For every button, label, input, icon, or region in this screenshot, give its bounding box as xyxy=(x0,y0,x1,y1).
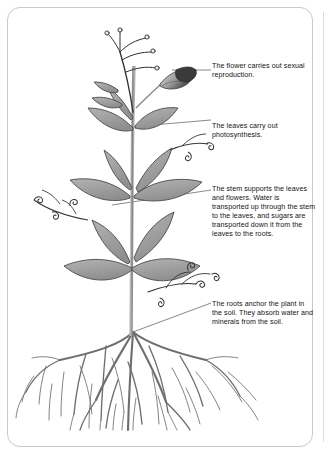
leaf-group-lower xyxy=(33,190,200,281)
leader-roots xyxy=(133,303,211,332)
leaf xyxy=(135,108,178,130)
leaf xyxy=(134,212,174,262)
leaf xyxy=(94,82,118,93)
stem-label: The stem supports the leaves and flowers… xyxy=(212,185,318,240)
root-system xyxy=(16,332,258,430)
roots-label: The roots anchor the plant in the soil. … xyxy=(212,300,316,327)
figure-page: The flower carries out sexual reproducti… xyxy=(0,0,330,462)
leaf xyxy=(92,220,130,264)
leaf xyxy=(64,259,132,280)
leaf-group-middle xyxy=(70,134,214,201)
flower-bud xyxy=(136,67,196,108)
flower-label: The flower carries out sexual reproducti… xyxy=(212,62,316,80)
leaves-label: The leaves carry out photosynthesis. xyxy=(212,122,316,140)
